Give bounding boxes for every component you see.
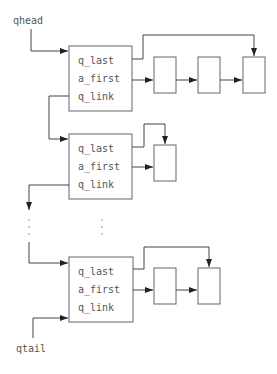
- q-last-arrow: [132, 124, 165, 147]
- q-last-arrow: [133, 247, 209, 269]
- queue-element: [154, 57, 176, 93]
- queue-element: [198, 268, 220, 304]
- field-q-link: q_link: [78, 179, 114, 191]
- q-link-arrow: [29, 185, 69, 210]
- field-q-last: q_last: [78, 143, 114, 155]
- qhead-label: qhead: [13, 15, 43, 26]
- queue-element: [243, 57, 265, 93]
- field-q-last: q_last: [78, 266, 114, 278]
- q-last-arrow: [132, 35, 254, 59]
- queue-header-3: q_last a_first q_link: [69, 257, 133, 322]
- queue-element: [198, 57, 220, 93]
- queue-header-2: q_last a_first q_link: [69, 134, 132, 199]
- q-link-arrow: [49, 96, 69, 139]
- qtail-pointer-arrow: [33, 318, 68, 338]
- queue-header-1: q_last a_first q_link: [69, 46, 132, 111]
- field-q-link: q_link: [78, 302, 114, 314]
- field-a-first: a_first: [78, 161, 120, 173]
- field-a-first: a_first: [78, 284, 120, 296]
- queue-element: [154, 145, 176, 181]
- ellipsis-dots: [28, 219, 103, 235]
- qhead-pointer-arrow: [31, 29, 68, 51]
- field-q-link: q_link: [78, 91, 114, 103]
- queue-element: [154, 268, 176, 304]
- q-link-arrow: [29, 242, 68, 263]
- field-a-first: a_first: [78, 73, 120, 85]
- queue-diagram: qhead q_last a_first q_link q_last a_fir…: [0, 0, 277, 374]
- qtail-label: qtail: [16, 343, 46, 354]
- field-q-last: q_last: [78, 55, 114, 67]
